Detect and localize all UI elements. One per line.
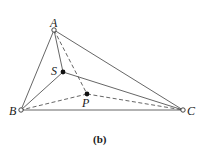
segment-ac [54, 30, 183, 110]
dashed-segments [21, 30, 183, 110]
label-s: S [51, 64, 57, 78]
point-s-marker [61, 70, 66, 75]
segment-pb [21, 94, 87, 110]
segment-ap [54, 30, 87, 94]
label-p: P [81, 96, 90, 110]
label-b: B [9, 104, 17, 118]
segment-sc [63, 72, 183, 110]
figure-caption: (b) [93, 133, 107, 146]
point-b-marker [19, 108, 23, 112]
label-c: C [187, 104, 196, 118]
segment-ab [21, 30, 54, 110]
point-c-marker [181, 108, 185, 112]
label-a: A [49, 16, 58, 30]
segment-pc [87, 94, 183, 110]
solid-segments [21, 30, 183, 110]
triangle-diagram: A B C S P (b) [0, 0, 212, 154]
